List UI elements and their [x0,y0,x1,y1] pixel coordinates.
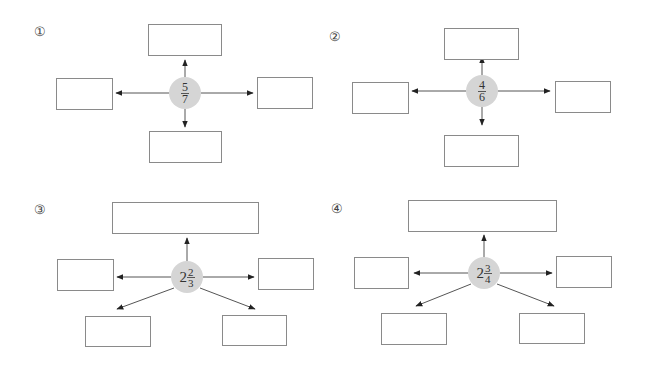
fraction-2: 4 6 [478,80,486,103]
fraction-1: 5 7 [181,82,189,105]
numerator: 2 [187,267,195,278]
arrow-bottom-left-3 [117,288,174,309]
fraction-part: 3 4 [484,263,492,284]
arrow-bottom-left-4 [416,284,471,306]
denominator: 6 [478,92,486,103]
answer-box-3-top[interactable] [112,202,259,234]
mixed-number-hub-4: 2 3 4 [468,257,500,289]
answer-box-1-top[interactable] [148,24,222,56]
answer-box-4-left[interactable] [354,257,409,289]
fraction-hub-2: 4 6 [466,75,498,107]
answer-box-3-left[interactable] [57,259,114,291]
denominator: 3 [187,278,195,288]
answer-box-2-left[interactable] [352,82,409,114]
answer-box-4-right[interactable] [556,256,612,288]
problem-label-3: ③ [34,203,46,217]
arrow-bottom-right-4 [497,284,554,306]
answer-box-3-bottom-left[interactable] [85,316,151,347]
mixed-number-3: 2 2 3 [180,267,195,288]
numerator: 3 [484,263,492,274]
answer-box-3-right[interactable] [258,258,314,290]
answer-box-2-bottom[interactable] [444,135,519,167]
problem-label-4: ④ [331,202,343,216]
whole-part: 2 [180,270,188,285]
answer-box-1-right[interactable] [257,77,313,109]
fraction-part: 2 3 [187,267,195,288]
mixed-number-hub-3: 2 2 3 [171,261,203,293]
answer-box-4-top[interactable] [408,200,557,232]
fraction-hub-1: 5 7 [169,77,201,109]
answer-box-1-left[interactable] [56,78,113,110]
answer-box-2-right[interactable] [555,81,611,113]
whole-part: 2 [477,266,485,281]
denominator: 7 [181,94,189,105]
answer-box-2-top[interactable] [444,28,519,60]
answer-box-3-bottom-right[interactable] [222,315,287,346]
denominator: 4 [484,274,492,284]
problem-label-1: ① [34,25,46,39]
mixed-number-4: 2 3 4 [477,263,492,284]
problem-label-2: ② [329,30,341,44]
answer-box-1-bottom[interactable] [149,131,222,163]
answer-box-4-bottom-right[interactable] [519,313,585,344]
arrow-bottom-right-3 [200,288,255,309]
answer-box-4-bottom-left[interactable] [381,313,447,345]
